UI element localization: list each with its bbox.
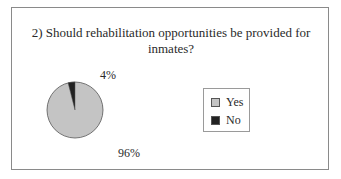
legend-swatch-yes [211, 98, 220, 107]
legend-label-no: No [226, 113, 241, 128]
pie-chart [45, 80, 105, 140]
legend-label-yes: Yes [226, 95, 243, 110]
legend-swatch-no [211, 116, 220, 125]
label-yes-pct: 96% [118, 146, 140, 161]
legend-item-yes: Yes [211, 95, 243, 109]
legend-item-no: No [211, 113, 241, 127]
label-no-pct: 4% [100, 68, 116, 83]
chart-title: 2) Should rehabilitation opportunities b… [12, 25, 330, 57]
legend: Yes No [203, 88, 250, 132]
